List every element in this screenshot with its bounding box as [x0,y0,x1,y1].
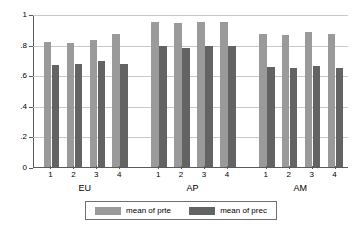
x-tick-mark [335,166,336,169]
y-tick-label: .8 [20,42,27,50]
y-tick-label: .4 [20,103,27,111]
bar [282,35,290,167]
y-tick-mark [29,76,33,77]
bar-chart: 1.8.6.4.20 123412341234 EUAPAM mean of p… [0,0,358,234]
x-tick-mark [181,166,182,169]
x-tick-label: 2 [179,170,183,180]
legend-swatch-icon-series-b [189,207,215,215]
x-axis-tick-labels: 123412341234 [33,170,348,184]
bar [112,34,120,167]
x-axis-line [33,167,348,168]
bar [120,64,128,167]
chart-legend: mean of prte mean of prec [85,201,277,220]
x-tick-label: 2 [71,170,75,180]
bar [98,61,106,167]
bar [267,67,275,167]
y-tick-mark [29,137,33,138]
x-tick-mark [266,166,267,169]
x-tick-mark [96,166,97,169]
x-tick-label: 3 [202,170,206,180]
bar [259,34,267,167]
bar [151,22,159,167]
bar [313,66,321,167]
bar [159,46,167,167]
x-tick-mark [312,166,313,169]
x-tick-label: 3 [94,170,98,180]
x-tick-mark [50,166,51,169]
bar [44,42,52,167]
bar [90,40,98,167]
x-tick-label: 4 [117,170,121,180]
legend-label-series-b: mean of prec [220,206,267,215]
y-tick-mark [29,15,33,16]
x-tick-mark [158,166,159,169]
bar [75,64,83,167]
bar [290,68,298,167]
plot-area: 1.8.6.4.20 [33,15,348,168]
legend-label-series-a: mean of prte [126,206,171,215]
y-tick-label: .6 [20,72,27,80]
x-group-label: AP [186,183,198,194]
x-tick-mark [73,166,74,169]
x-tick-label: 3 [309,170,313,180]
y-tick-label: 0 [23,164,27,172]
bar [67,43,75,167]
y-tick-mark [29,107,33,108]
bar [228,46,236,167]
bars-layer [34,15,348,167]
y-tick-mark [29,168,33,169]
bar [174,23,182,167]
x-tick-label: 2 [286,170,290,180]
bar [336,68,344,167]
bar [52,65,60,167]
x-group-label: AM [293,183,307,194]
x-tick-mark [227,166,228,169]
bar [328,34,336,167]
bar [197,22,205,167]
x-tick-label: 1 [48,170,52,180]
legend-entry-series-a: mean of prte [95,206,171,215]
x-tick-mark [204,166,205,169]
y-tick-label: 1 [23,11,27,19]
legend-entry-series-b: mean of prec [189,206,267,215]
x-tick-mark [289,166,290,169]
x-tick-label: 4 [332,170,336,180]
bar [305,32,313,167]
bar [182,48,190,167]
bar [220,22,228,167]
x-tick-label: 1 [264,170,268,180]
x-group-label: EU [79,183,92,194]
legend-swatch-icon-series-a [95,207,121,215]
x-tick-mark [119,166,120,169]
x-axis-group-labels: EUAPAM [33,183,348,197]
y-tick-mark [29,46,33,47]
x-tick-label: 1 [156,170,160,180]
y-tick-label: .2 [20,133,27,141]
x-tick-label: 4 [225,170,229,180]
bar [205,46,213,167]
